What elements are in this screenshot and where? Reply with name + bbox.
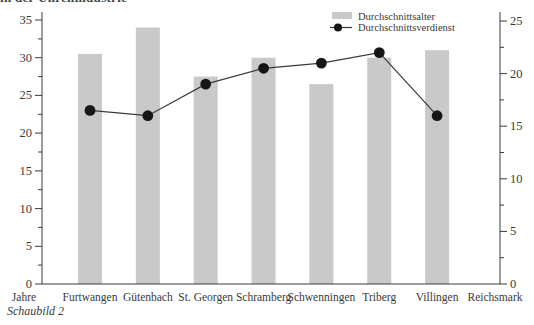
earnings-point-triberg xyxy=(374,47,385,58)
right-tick-label: 25 xyxy=(510,14,523,28)
right-tick-label: 5 xyxy=(510,224,516,238)
category-label-st-georgen: St. Georgen xyxy=(178,291,233,304)
earnings-point-schramberg xyxy=(258,63,269,74)
right-tick-label: 20 xyxy=(510,67,523,81)
left-tick-label: 20 xyxy=(20,126,33,140)
earnings-point-g-tenbach xyxy=(142,110,153,121)
left-tick-label: 0 xyxy=(26,277,32,291)
right-tick-label: 10 xyxy=(510,172,523,186)
category-label-schramberg: Schramberg xyxy=(236,291,292,304)
legend-dot-symbol xyxy=(334,24,342,32)
bar-st-georgen xyxy=(194,77,218,284)
earnings-point-st-georgen xyxy=(200,79,211,90)
combo-chart: 051015202530350510152025FurtwangenGütenb… xyxy=(0,5,534,305)
legend-label-durchschnittsverdienst: Durchschnittsverdienst xyxy=(358,22,455,33)
category-label-villingen: Villingen xyxy=(416,291,459,304)
legend: DurchschnittsalterDurchschnittsverdienst xyxy=(330,11,455,33)
legend-label-durchschnittsalter: Durchschnittsalter xyxy=(358,11,435,22)
clipped-heading-text: in der Uhrenindustrie xyxy=(0,0,127,4)
left-tick-label: 30 xyxy=(20,51,33,65)
left-tick-label: 15 xyxy=(20,164,33,178)
left-tick-label: 10 xyxy=(20,202,33,216)
bar-furtwangen xyxy=(78,54,102,284)
category-label-g-tenbach: Gütenbach xyxy=(123,291,173,303)
earnings-point-furtwangen xyxy=(85,105,96,116)
left-axis-unit-label: Jahre xyxy=(12,291,36,303)
earnings-point-villingen xyxy=(432,110,443,121)
bar-villingen xyxy=(425,50,449,284)
left-tick-label: 5 xyxy=(26,239,32,253)
right-tick-label: 15 xyxy=(510,119,523,133)
earnings-point-schwenningen xyxy=(316,58,327,69)
left-tick-label: 25 xyxy=(20,88,33,102)
right-tick-label: 0 xyxy=(510,277,516,291)
category-label-schwenningen: Schwenningen xyxy=(288,291,356,304)
left-tick-label: 35 xyxy=(20,13,33,27)
bar-triberg xyxy=(367,58,391,284)
legend-bar-swatch xyxy=(332,12,352,19)
category-label-furtwangen: Furtwangen xyxy=(63,291,118,304)
figure-caption: Schaubild 2 xyxy=(7,304,64,319)
category-label-triberg: Triberg xyxy=(362,291,396,304)
bar-schramberg xyxy=(252,58,276,284)
right-axis-unit-label: Reichsmark xyxy=(468,291,523,303)
bar-g-tenbach xyxy=(136,28,160,285)
bar-schwenningen xyxy=(309,84,333,284)
